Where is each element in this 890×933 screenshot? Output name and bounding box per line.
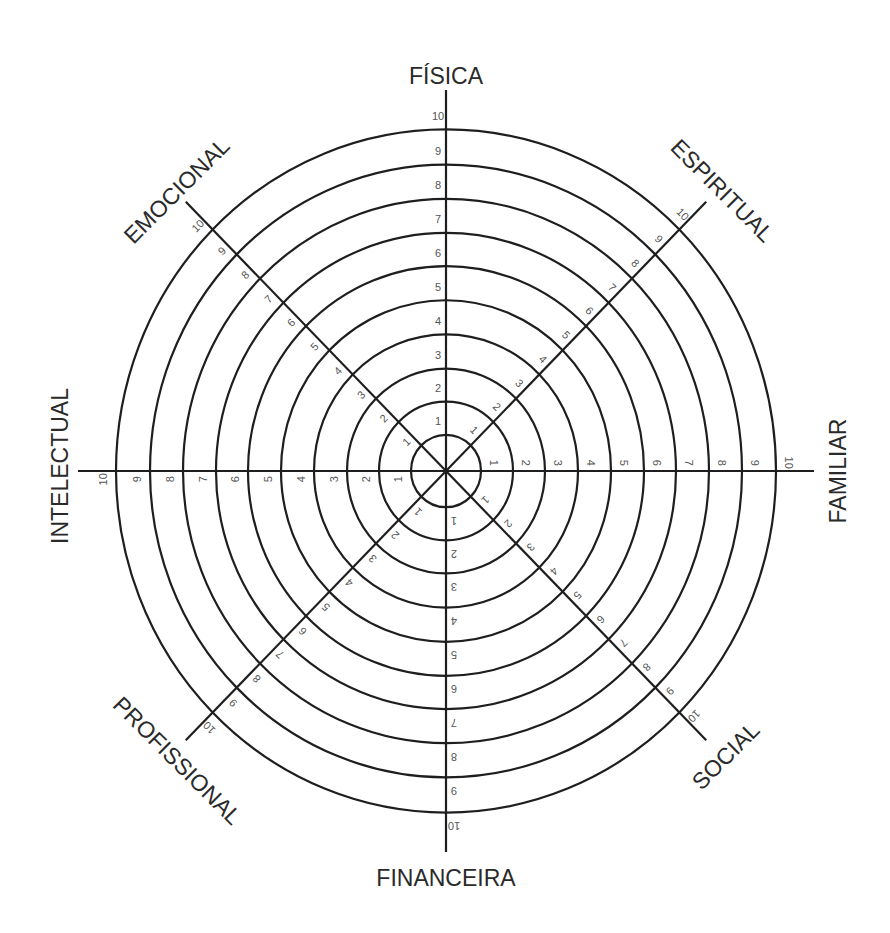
scale-number: 9 (451, 785, 457, 797)
scale-number: 8 (239, 268, 252, 281)
scale-number: 4 (295, 476, 307, 482)
scale-number: 1 (468, 424, 481, 437)
scale-number: 7 (262, 293, 275, 306)
scale-number: 3 (366, 552, 379, 565)
scale-number: 5 (571, 589, 584, 602)
scale-number: 9 (664, 685, 677, 698)
scale-number: 8 (164, 476, 176, 482)
area-axes (78, 90, 814, 852)
scale-number: 9 (652, 233, 665, 246)
axis-line (186, 471, 446, 740)
scale-number: 6 (651, 460, 663, 466)
scale-number: 1 (488, 460, 500, 466)
scale-number: 7 (273, 648, 286, 661)
scale-number: 5 (435, 281, 441, 293)
scale-number: 10 (783, 457, 795, 469)
area-label-0: FÍSICA (409, 63, 484, 89)
scale-number: 4 (548, 565, 561, 578)
scale-number: 9 (227, 697, 240, 710)
scale-number: 2 (377, 412, 390, 425)
scale-number: 3 (451, 581, 457, 593)
scale-number: 10 (97, 473, 109, 485)
scale-number: 6 (451, 683, 457, 695)
scale-number: 9 (749, 460, 761, 466)
scale-number: 7 (617, 637, 630, 650)
scale-number: 1 (392, 476, 404, 482)
area-label-5: PROFISSIONAL (108, 691, 247, 830)
axis-line (446, 202, 706, 471)
area-label-6: INTELECTUAL (47, 388, 73, 544)
scale-number: 5 (308, 340, 321, 353)
scale-number: 2 (451, 548, 457, 560)
scale-number: 4 (537, 353, 550, 366)
scale-number: 1 (400, 435, 413, 448)
area-label-1: ESPIRITUAL (666, 134, 779, 247)
scale-number: 7 (683, 460, 695, 466)
scale-number: 4 (435, 315, 441, 327)
scale-number: 2 (520, 460, 532, 466)
scale-number: 7 (451, 717, 457, 729)
scale-number: 5 (618, 460, 630, 466)
axis-line (446, 471, 706, 740)
scale-number: 3 (355, 388, 368, 401)
area-label-4: FINANCEIRA (376, 865, 516, 891)
scale-number: 8 (640, 661, 653, 674)
scale-number: 6 (285, 316, 298, 329)
scale-number: 3 (513, 377, 526, 390)
wheel-of-life-diagram: 1234567891012345678910123456789101234567… (0, 0, 890, 933)
scale-number: 7 (606, 281, 619, 294)
scale-number: 9 (435, 145, 441, 157)
scale-number: 2 (389, 529, 402, 542)
scale-number: 8 (629, 257, 642, 270)
axis-line (186, 202, 446, 471)
scale-number: 8 (250, 672, 263, 685)
scale-number: 4 (331, 364, 344, 377)
scale-number: 3 (328, 476, 340, 482)
scale-number: 6 (583, 304, 596, 317)
scale-number: 7 (435, 213, 441, 225)
scale-number: 1 (411, 506, 424, 519)
scale-number: 6 (595, 613, 608, 626)
scale-number: 3 (552, 460, 564, 466)
scale-number: 2 (435, 382, 441, 394)
scale-number: 6 (296, 625, 309, 638)
scale-number: 3 (435, 349, 441, 361)
scale-number: 6 (229, 476, 241, 482)
scale-number: 1 (451, 515, 457, 527)
scale-number: 7 (197, 476, 209, 482)
scale-number: 9 (131, 476, 143, 482)
area-label-7: EMOCIONAL (119, 133, 235, 249)
scale-number: 2 (360, 476, 372, 482)
scale-number: 3 (525, 541, 538, 554)
scale-number: 8 (716, 460, 728, 466)
scale-number: 5 (560, 328, 573, 341)
scale-number: 4 (451, 615, 457, 627)
scale-number: 5 (319, 601, 332, 614)
scale-number: 2 (502, 517, 515, 530)
scale-number: 10 (432, 110, 444, 122)
scale-number: 4 (585, 460, 597, 466)
scale-number: 5 (451, 649, 457, 661)
scale-number: 9 (215, 244, 228, 257)
scale-number: 6 (435, 247, 441, 259)
scale-number: 5 (262, 476, 274, 482)
scale-number: 1 (435, 415, 441, 427)
scale-number: 1 (479, 494, 492, 507)
area-label-3: SOCIAL (687, 716, 765, 794)
area-label-2: FAMILIAR (825, 419, 851, 524)
scale-number: 10 (448, 820, 460, 832)
scale-number: 8 (435, 179, 441, 191)
scale-number: 8 (451, 751, 457, 763)
scale-number: 4 (343, 577, 356, 590)
scale-number: 2 (491, 400, 504, 413)
